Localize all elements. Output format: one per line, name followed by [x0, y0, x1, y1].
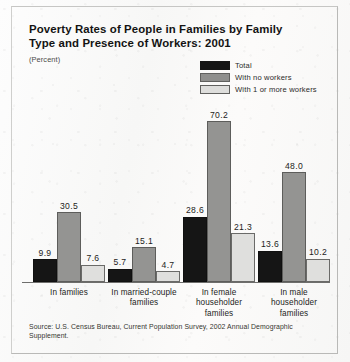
legend-label: With no workers	[235, 73, 292, 82]
legend-item-nowork: With no workers	[200, 72, 317, 83]
bar-group: 13.648.010.2	[258, 100, 330, 282]
bar	[231, 233, 255, 282]
bar	[108, 269, 132, 282]
plot-area: 9.930.57.65.715.14.728.670.221.313.648.0…	[22, 100, 330, 283]
bar	[183, 217, 207, 282]
bar	[57, 212, 81, 282]
x-axis-baseline	[22, 282, 330, 283]
bar	[306, 259, 330, 282]
chart-subtitle: (Percent)	[29, 55, 60, 64]
bar-group: 5.715.14.7	[108, 100, 180, 282]
bar-value-label: 70.2	[204, 110, 234, 120]
source-note: Source: U.S. Census Bureau, Current Popu…	[29, 322, 299, 340]
chart-legend: TotalWith no workersWith 1 or more worke…	[200, 60, 317, 96]
bar	[81, 265, 105, 282]
category-label: In malehouseholderfamilies	[250, 288, 338, 319]
legend-swatch-nowork	[200, 73, 230, 82]
bar-value-label: 21.3	[228, 222, 258, 232]
bar	[258, 251, 282, 282]
bar-value-label: 7.6	[78, 253, 108, 263]
legend-swatch-total	[200, 61, 230, 70]
bar-value-label: 9.9	[30, 248, 60, 258]
bar-value-label: 13.6	[255, 239, 285, 249]
legend-label: With 1 or more workers	[235, 85, 317, 94]
bar-value-label: 28.6	[180, 205, 210, 215]
bar-value-label: 10.2	[303, 247, 333, 257]
bar-group: 9.930.57.6	[33, 100, 105, 282]
chart-title: Poverty Rates of People in Families by F…	[29, 22, 287, 50]
legend-item-work: With 1 or more workers	[200, 84, 317, 95]
legend-swatch-work	[200, 85, 230, 94]
bar	[207, 121, 231, 282]
legend-item-total: Total	[200, 60, 317, 71]
bar-value-label: 30.5	[54, 201, 84, 211]
bar-value-label: 4.7	[153, 260, 183, 270]
bar	[282, 172, 306, 282]
bar-value-label: 5.7	[105, 257, 135, 267]
bar	[33, 259, 57, 282]
legend-label: Total	[235, 61, 252, 70]
bar-value-label: 48.0	[279, 161, 309, 171]
bar-value-label: 15.1	[129, 236, 159, 246]
bar	[156, 271, 180, 282]
bar-group: 28.670.221.3	[183, 100, 255, 282]
